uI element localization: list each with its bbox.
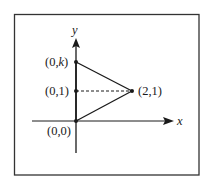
label-2-1: (2,1): [138, 84, 162, 98]
label-0-1: (0,1): [45, 84, 69, 98]
point-origin: [74, 119, 78, 123]
segment-0k-to-21: [76, 62, 132, 91]
point-0-k: [74, 60, 78, 64]
label-0-k: (0,k): [45, 55, 68, 69]
label-origin: (0,0): [47, 124, 71, 138]
segment-origin-to-21: [76, 91, 132, 121]
triangle-diagram: x y (0,0) (0,1) (0,k) (2,1): [0, 0, 207, 185]
point-0-1: [74, 89, 78, 93]
diagram-frame: [15, 15, 200, 176]
y-axis-label: y: [70, 23, 78, 37]
x-axis-label: x: [176, 114, 183, 128]
point-2-1: [130, 89, 134, 93]
